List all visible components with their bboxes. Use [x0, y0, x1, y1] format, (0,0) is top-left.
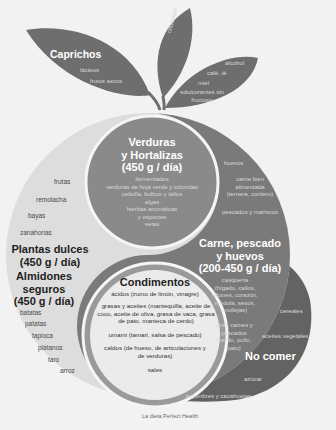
condimentos-item: sales	[140, 366, 170, 374]
almidones-item: patatas	[25, 320, 46, 328]
almidones-item: arroz	[60, 367, 75, 375]
no-comer-item: aceites vegetales	[262, 333, 308, 341]
no-comer-item: cereales	[280, 308, 303, 316]
caption: La dieta Perfect Health	[120, 413, 220, 419]
no-comer-item: azúcar	[244, 376, 262, 384]
almidones-title: Almidones seguros (450 g / día)	[8, 270, 80, 308]
plantas-item: remolacha	[36, 196, 66, 204]
carne-item: pescados y mariscos	[222, 209, 278, 217]
right-leaf-item: café, té	[207, 70, 227, 78]
no-comer-title: No comer	[245, 350, 296, 363]
right-leaf-item: miel	[198, 80, 209, 88]
condimentos-item: ácidos (zumo de limón, vinagre)	[100, 290, 210, 298]
almidones-item: batatas	[20, 309, 41, 317]
carne-item: huevos	[224, 160, 243, 168]
condimentos-item: grasas y aceites (mantequilla, aceite de…	[96, 302, 216, 325]
caprichos-leaf	[26, 28, 150, 96]
verduras-title: Verduras y Hortalizas (450 g / día)	[112, 136, 192, 174]
plantas-item: bayas	[28, 212, 45, 220]
plantas-item: frutas	[54, 178, 70, 186]
plantas-title: Plantas dulces (450 g / día)	[8, 243, 92, 268]
almidones-item: taro	[48, 356, 59, 364]
caprichos-item: lácteos	[80, 67, 99, 75]
caprichos-item: frutos secos	[90, 78, 122, 86]
right-leaf-item: alcohol	[225, 60, 244, 68]
verduras-items: fermentados verduras de hoja verde y col…	[92, 176, 212, 229]
almidones-item: tapioca	[32, 332, 53, 340]
condimentos-item: umami (tamari, salsa de pescado)	[100, 331, 210, 339]
condimentos-item: caldos (de hueso, de articulaciones y de…	[102, 344, 208, 359]
no-comer-item: legumbres y cacahuetes	[186, 393, 251, 401]
right-leaf-item: edulcorantes sin fructosa	[178, 89, 226, 104]
condimentos-title: Condimentos	[110, 276, 200, 289]
carne-item: casquería (hígado, callos, riñones, cora…	[210, 277, 260, 315]
carne-item: carne bien alimentada (ternera, cordero)	[226, 176, 274, 199]
almidones-item: plátanos	[38, 344, 63, 352]
carne-title: Carne, pescado y huevos (200-450 g / día…	[190, 237, 290, 275]
plantas-item: zanahorias	[20, 229, 52, 237]
caprichos-title: Caprichos	[50, 48, 101, 61]
carne-item: otras carnes y pescados (cerdo, pollo, p…	[212, 322, 256, 352]
